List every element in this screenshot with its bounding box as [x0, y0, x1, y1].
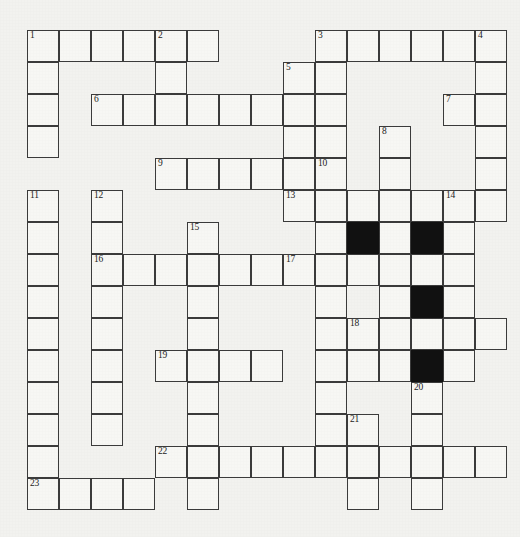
crossword-cell[interactable]: 5 [283, 62, 315, 94]
crossword-cell[interactable] [283, 94, 315, 126]
crossword-cell[interactable] [91, 318, 123, 350]
crossword-cell[interactable] [411, 30, 443, 62]
crossword-cell[interactable] [315, 286, 347, 318]
crossword-cell[interactable]: 11 [27, 190, 59, 222]
crossword-cell[interactable]: 23 [27, 478, 59, 510]
crossword-grid[interactable]: 1234567891011121314151617181920212223 [0, 0, 520, 537]
crossword-cell[interactable] [315, 414, 347, 446]
crossword-cell[interactable] [251, 350, 283, 382]
crossword-cell[interactable] [123, 30, 155, 62]
crossword-cell[interactable]: 13 [283, 190, 315, 222]
crossword-cell[interactable] [187, 286, 219, 318]
crossword-cell[interactable] [187, 94, 219, 126]
crossword-cell[interactable] [91, 286, 123, 318]
crossword-cell[interactable] [411, 318, 443, 350]
crossword-cell[interactable] [27, 318, 59, 350]
crossword-cell[interactable] [123, 254, 155, 286]
crossword-cell[interactable]: 18 [347, 318, 379, 350]
crossword-cell[interactable]: 16 [91, 254, 123, 286]
crossword-cell[interactable] [347, 446, 379, 478]
crossword-cell[interactable] [59, 30, 91, 62]
crossword-cell[interactable] [187, 414, 219, 446]
crossword-cell[interactable] [27, 126, 59, 158]
crossword-cell[interactable]: 8 [379, 126, 411, 158]
crossword-cell[interactable]: 19 [155, 350, 187, 382]
crossword-cell[interactable] [315, 382, 347, 414]
crossword-cell[interactable] [443, 254, 475, 286]
crossword-cell[interactable] [443, 30, 475, 62]
crossword-cell[interactable] [411, 190, 443, 222]
crossword-cell[interactable] [475, 158, 507, 190]
crossword-cell[interactable] [283, 126, 315, 158]
crossword-cell[interactable] [315, 254, 347, 286]
crossword-cell[interactable] [187, 254, 219, 286]
crossword-cell[interactable] [411, 478, 443, 510]
crossword-cell[interactable]: 10 [315, 158, 347, 190]
crossword-cell[interactable]: 7 [443, 94, 475, 126]
crossword-cell[interactable] [155, 62, 187, 94]
crossword-cell[interactable] [155, 254, 187, 286]
crossword-cell[interactable] [251, 446, 283, 478]
crossword-cell[interactable] [315, 62, 347, 94]
crossword-cell[interactable]: 22 [155, 446, 187, 478]
crossword-cell[interactable] [27, 222, 59, 254]
crossword-cell[interactable] [91, 350, 123, 382]
crossword-cell[interactable] [475, 446, 507, 478]
crossword-cell[interactable] [27, 446, 59, 478]
crossword-cell[interactable]: 15 [187, 222, 219, 254]
crossword-cell[interactable] [27, 414, 59, 446]
crossword-cell[interactable] [347, 190, 379, 222]
crossword-cell[interactable] [475, 190, 507, 222]
crossword-cell[interactable] [251, 94, 283, 126]
crossword-cell[interactable]: 3 [315, 30, 347, 62]
crossword-cell[interactable] [315, 222, 347, 254]
crossword-cell[interactable] [187, 318, 219, 350]
crossword-cell[interactable] [411, 414, 443, 446]
crossword-cell[interactable] [187, 158, 219, 190]
crossword-cell[interactable]: 21 [347, 414, 379, 446]
crossword-cell[interactable] [219, 94, 251, 126]
crossword-cell[interactable] [475, 62, 507, 94]
crossword-cell[interactable] [315, 446, 347, 478]
crossword-cell[interactable] [379, 158, 411, 190]
crossword-cell[interactable] [379, 446, 411, 478]
crossword-cell[interactable] [251, 254, 283, 286]
crossword-cell[interactable] [27, 286, 59, 318]
crossword-cell[interactable] [91, 222, 123, 254]
crossword-cell[interactable] [219, 254, 251, 286]
crossword-cell[interactable] [283, 158, 315, 190]
crossword-cell[interactable] [59, 478, 91, 510]
crossword-cell[interactable] [27, 94, 59, 126]
crossword-cell[interactable] [123, 478, 155, 510]
crossword-cell[interactable] [443, 446, 475, 478]
crossword-cell[interactable] [315, 94, 347, 126]
crossword-cell[interactable] [219, 350, 251, 382]
crossword-cell[interactable] [411, 446, 443, 478]
crossword-cell[interactable]: 14 [443, 190, 475, 222]
crossword-cell[interactable] [187, 382, 219, 414]
crossword-cell[interactable] [475, 318, 507, 350]
crossword-cell[interactable]: 2 [155, 30, 187, 62]
crossword-cell[interactable] [27, 382, 59, 414]
crossword-cell[interactable] [443, 222, 475, 254]
crossword-cell[interactable] [379, 350, 411, 382]
crossword-cell[interactable] [347, 30, 379, 62]
crossword-cell[interactable] [379, 286, 411, 318]
crossword-cell[interactable] [475, 126, 507, 158]
crossword-cell[interactable] [219, 158, 251, 190]
crossword-cell[interactable] [315, 190, 347, 222]
crossword-cell[interactable] [443, 286, 475, 318]
crossword-cell[interactable]: 17 [283, 254, 315, 286]
crossword-cell[interactable]: 20 [411, 382, 443, 414]
crossword-cell[interactable] [27, 254, 59, 286]
crossword-cell[interactable] [347, 478, 379, 510]
crossword-cell[interactable] [155, 94, 187, 126]
crossword-cell[interactable] [219, 446, 251, 478]
crossword-cell[interactable] [27, 62, 59, 94]
crossword-cell[interactable] [379, 190, 411, 222]
crossword-cell[interactable]: 4 [475, 30, 507, 62]
crossword-cell[interactable] [379, 222, 411, 254]
crossword-cell[interactable] [91, 382, 123, 414]
crossword-cell[interactable]: 9 [155, 158, 187, 190]
crossword-cell[interactable] [91, 414, 123, 446]
